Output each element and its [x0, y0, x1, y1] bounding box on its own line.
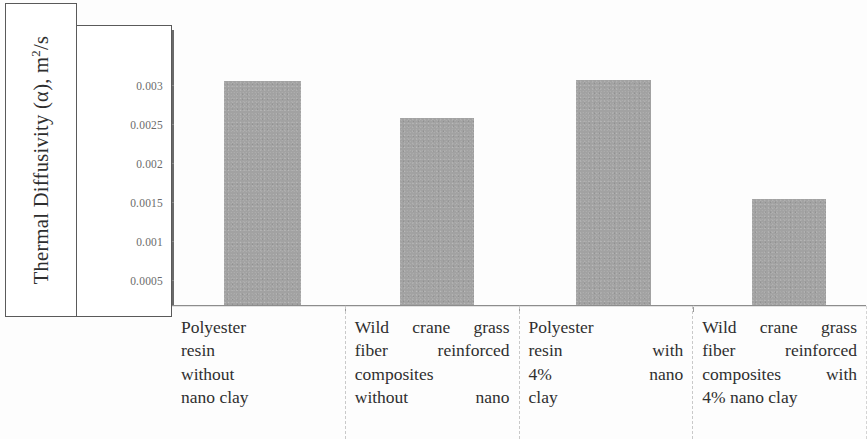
y-tick-label-0.001: 0.001 — [136, 236, 163, 248]
x-axis-category-2: Wild crane grass fiber reinforced compos… — [346, 306, 520, 439]
category-2-line-2: fiber reinforced — [355, 339, 510, 362]
category-4-line-1: Wild crane grass — [702, 316, 857, 339]
x-axis-category-row: Polyester resin without nano clay Wild c… — [172, 306, 867, 439]
y-axis-tick-label-box: 0.003 0.0025 0.002 0.0015 0.001 0.0005 — [77, 25, 172, 317]
y-axis-title-tail: /s — [30, 36, 52, 50]
category-1-line-4: nano clay — [181, 386, 336, 409]
category-2-line-1: Wild crane grass — [355, 316, 510, 339]
y-axis-title-box: Thermal Diffusivity (α), m2/s — [5, 3, 77, 317]
category-4-line-4: 4% nano clay — [702, 386, 857, 409]
y-tick-label-0.0025: 0.0025 — [130, 119, 163, 131]
category-1-line-2: resin — [181, 339, 336, 362]
category-2-line-4: without nano — [355, 386, 510, 409]
category-3-line-1: Polyester — [529, 316, 684, 339]
y-tick-label-0.003: 0.003 — [136, 80, 163, 92]
category-4-line-2: fiber reinforced — [702, 339, 857, 362]
plot-area — [172, 30, 866, 306]
bar-chart-figure: Thermal Diffusivity (α), m2/s 0.003 0.00… — [0, 0, 867, 439]
bar-wild-crane-grass-fiber-composites-with-4-nano-clay — [752, 199, 826, 305]
bar-polyester-resin-without-nano-clay — [224, 81, 301, 305]
category-3-line-3: 4% nano — [529, 363, 684, 386]
x-axis-category-4: Wild crane grass fiber reinforced compos… — [693, 306, 867, 439]
y-axis-title: Thermal Diffusivity (α), m2/s — [30, 36, 53, 285]
category-1-line-1: Polyester — [181, 316, 336, 339]
x-axis-category-3: Polyester resin with 4% nano clay — [520, 306, 694, 439]
category-4-line-3: composites with — [702, 363, 857, 386]
bar-polyester-resin-with-4-nano-clay — [576, 80, 651, 305]
category-2-line-3: composites — [355, 363, 510, 386]
y-tick-label-0.0015: 0.0015 — [130, 197, 163, 209]
y-tick-label-0.0005: 0.0005 — [130, 275, 163, 287]
category-3-line-2: resin with — [529, 339, 684, 362]
category-1-line-3: without — [181, 363, 336, 386]
bar-wild-crane-grass-fiber-composites-without-nano — [400, 118, 474, 305]
y-axis-title-main: Thermal Diffusivity (α), m — [30, 57, 52, 285]
x-axis-category-1: Polyester resin without nano clay — [172, 306, 346, 439]
y-tick-label-0.002: 0.002 — [136, 158, 163, 170]
y-axis-line — [172, 30, 174, 306]
y-axis-title-superscript: 2 — [29, 50, 43, 57]
category-3-line-4: clay — [529, 386, 684, 409]
